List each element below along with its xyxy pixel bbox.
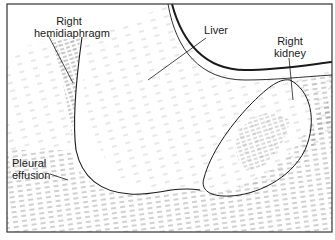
label-right-kidney: Right kidney (268, 35, 312, 59)
label-right-hemidiaphragm: Right hemidiaphragm (34, 15, 104, 39)
label-pleural-effusion: Pleural effusion (12, 157, 56, 181)
label-right-hemidiaphragm-line1: Right (34, 15, 104, 27)
label-right-hemidiaphragm-line2: hemidiaphragm (34, 27, 104, 39)
label-right-kidney-line1: Right (268, 35, 312, 47)
label-right-kidney-line2: kidney (268, 47, 312, 59)
label-liver-text: Liver (198, 24, 234, 36)
label-pleural-effusion-line2: effusion (12, 169, 56, 181)
label-pleural-effusion-line1: Pleural (12, 157, 56, 169)
label-liver: Liver (198, 24, 234, 36)
